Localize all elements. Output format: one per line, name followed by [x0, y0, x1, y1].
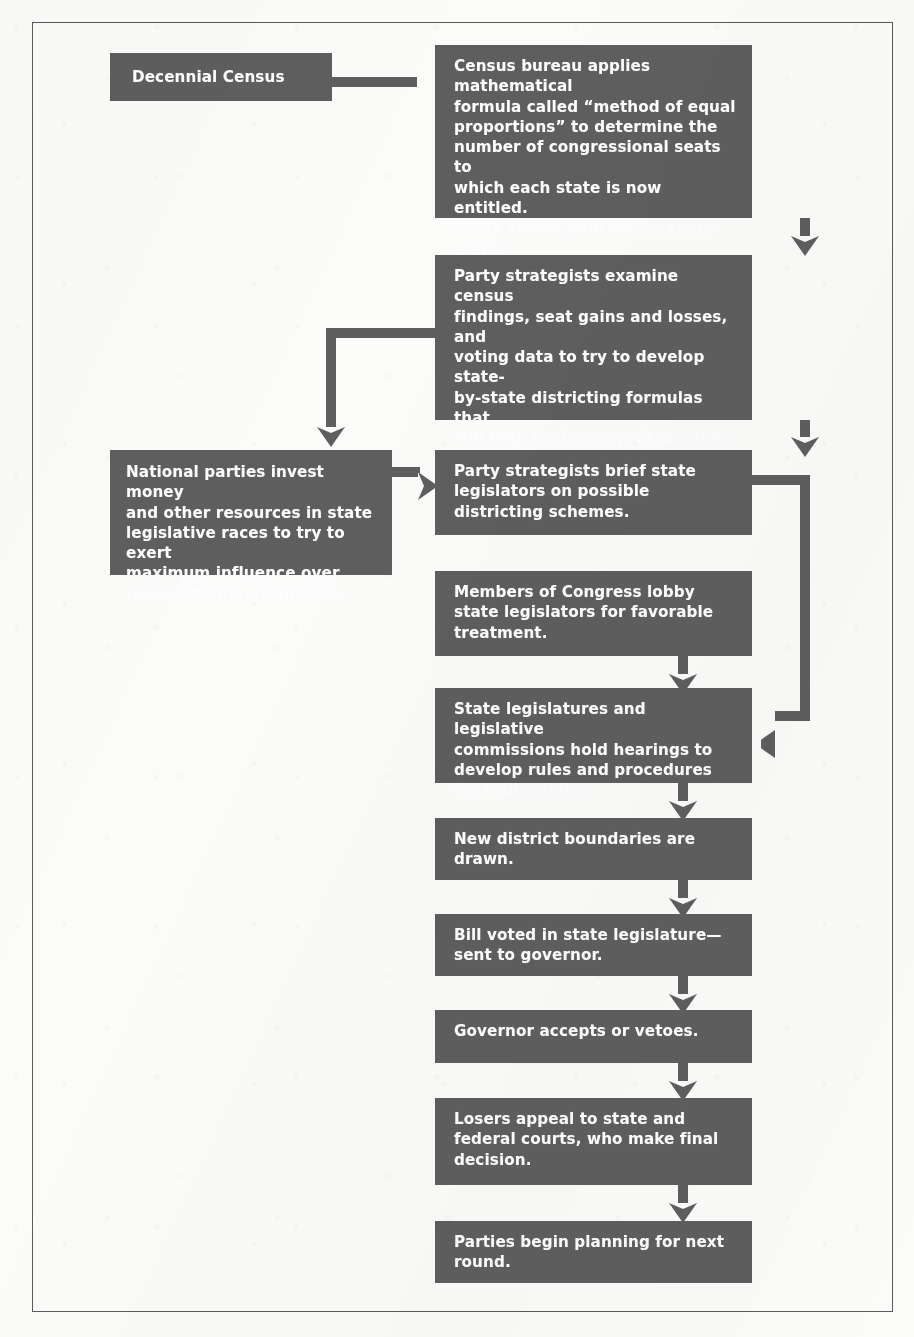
connector-census-to-bureau-line: [332, 77, 417, 87]
node-members-of-congress-lobby[interactable]: Members of Congress lobby state legislat…: [435, 571, 752, 656]
connector-strategists-to-national-horizontal: [326, 328, 436, 338]
node-bill-voted-label: Bill voted in state legislature— sent to…: [435, 914, 752, 966]
node-losers-appeal-label: Losers appeal to state and federal court…: [435, 1098, 752, 1170]
node-party-strategists-brief-label: Party strategists brief state legislator…: [435, 450, 752, 522]
node-national-parties-invest[interactable]: National parties invest money and other …: [110, 450, 392, 575]
arrowhead-brief-to-hearings: [755, 730, 775, 758]
node-decennial-census[interactable]: Decennial Census: [110, 53, 332, 101]
node-governor-accepts-vetoes[interactable]: Governor accepts or vetoes.: [435, 1010, 752, 1063]
node-members-of-congress-lobby-label: Members of Congress lobby state legislat…: [435, 571, 752, 643]
arrowhead-losers-to-parties: [669, 1203, 697, 1223]
node-party-strategists-examine[interactable]: Party strategists examine census finding…: [435, 255, 752, 420]
arrowhead-strategists-to-brief: [791, 437, 819, 457]
connector-bureau-to-strategists-line: [800, 218, 810, 238]
node-decennial-census-label: Decennial Census: [110, 67, 285, 87]
arrowhead-bureau-to-strategists: [791, 236, 819, 256]
node-state-legislatures-hearings[interactable]: State legislatures and legislative commi…: [435, 688, 752, 783]
node-new-district-boundaries-label: New district boundaries are drawn.: [435, 818, 752, 870]
connector-national-to-brief-line: [392, 467, 420, 477]
node-bill-voted[interactable]: Bill voted in state legislature— sent to…: [435, 914, 752, 976]
node-losers-appeal[interactable]: Losers appeal to state and federal court…: [435, 1098, 752, 1185]
node-party-strategists-brief[interactable]: Party strategists brief state legislator…: [435, 450, 752, 535]
connector-brief-to-hearings-horizontal-bottom: [775, 711, 810, 721]
node-national-parties-invest-label: National parties invest money and other …: [110, 450, 392, 604]
connector-bill-to-governor-line: [678, 976, 688, 996]
node-parties-begin-planning-label: Parties begin planning for next round.: [435, 1221, 752, 1273]
node-census-bureau-formula[interactable]: Census bureau applies mathematical formu…: [435, 45, 752, 218]
flowchart-page: Decennial Census Census bureau applies m…: [0, 0, 914, 1337]
node-governor-accepts-vetoes-label: Governor accepts or vetoes.: [435, 1010, 752, 1041]
connector-losers-to-parties-line: [678, 1185, 688, 1205]
node-state-legislatures-hearings-label: State legislatures and legislative commi…: [435, 688, 752, 800]
node-new-district-boundaries[interactable]: New district boundaries are drawn.: [435, 818, 752, 880]
connector-strategists-to-national-vertical: [326, 328, 336, 431]
connector-lobby-to-hearings-line: [678, 656, 688, 676]
arrowhead-strategists-to-national: [317, 427, 345, 447]
connector-brief-to-hearings-vertical: [800, 475, 810, 721]
node-parties-begin-planning[interactable]: Parties begin planning for next round.: [435, 1221, 752, 1283]
connector-boundaries-to-bill-line: [678, 880, 688, 900]
connector-governor-to-losers-line: [678, 1063, 688, 1083]
